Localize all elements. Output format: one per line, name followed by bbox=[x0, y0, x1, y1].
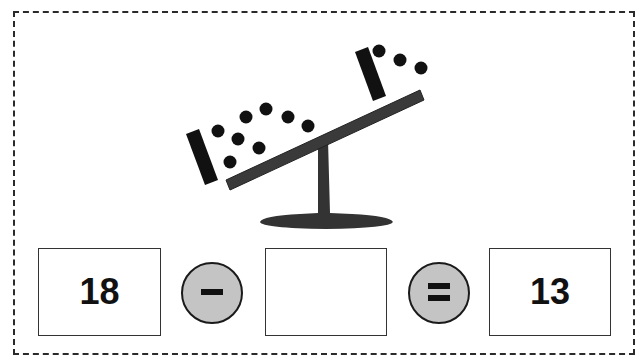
result-number: 13 bbox=[530, 271, 570, 313]
left-ones-dots bbox=[212, 103, 315, 169]
answer-box[interactable] bbox=[265, 248, 387, 336]
left-tens-bar bbox=[186, 129, 218, 185]
minus-operator bbox=[181, 262, 243, 324]
equals-operator bbox=[408, 262, 470, 324]
first-number-box: 18 bbox=[38, 248, 161, 336]
first-number: 18 bbox=[79, 271, 119, 313]
right-ones-dots bbox=[373, 45, 428, 75]
equals-icon-bottom bbox=[428, 295, 450, 301]
equals-icon-top bbox=[428, 283, 450, 289]
result-number-box: 13 bbox=[489, 248, 611, 336]
seesaw-base bbox=[260, 138, 393, 229]
minus-icon bbox=[201, 289, 223, 295]
